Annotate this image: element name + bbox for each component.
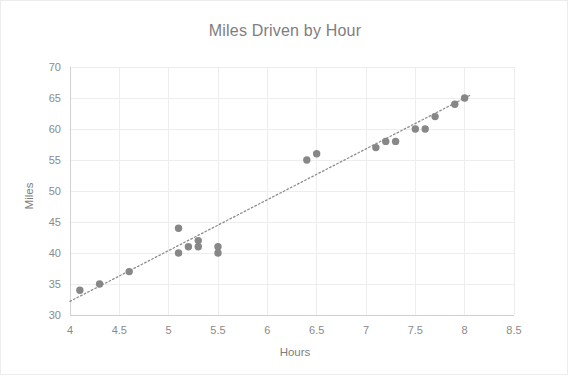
x-tick-label: 5 <box>166 324 172 336</box>
x-tick-label: 7 <box>363 324 369 336</box>
data-point <box>96 280 103 287</box>
data-point <box>392 138 399 145</box>
data-point <box>372 144 379 151</box>
data-point <box>382 138 389 145</box>
x-tick-label: 5.5 <box>210 324 225 336</box>
data-point <box>422 125 429 132</box>
chart-container: Miles Driven by Hour 303540455055606570 … <box>0 0 568 375</box>
data-point <box>303 156 310 163</box>
scatter-plot-svg: 303540455055606570 44.555.566.577.588.5 … <box>1 1 569 376</box>
data-point <box>461 94 468 101</box>
data-point <box>431 113 438 120</box>
data-point <box>214 249 221 256</box>
y-tick-label: 55 <box>49 154 61 166</box>
data-point <box>313 150 320 157</box>
x-tick-label: 7.5 <box>408 324 423 336</box>
x-tick-label: 4 <box>67 324 73 336</box>
y-axis-title: Miles <box>23 182 35 209</box>
x-tick-label: 8 <box>462 324 468 336</box>
x-axis-tick-labels: 44.555.566.577.588.5 <box>67 324 522 336</box>
y-tick-label: 45 <box>49 216 61 228</box>
y-tick-label: 40 <box>49 247 61 259</box>
x-tick-label: 8.5 <box>506 324 521 336</box>
x-tick-label: 6.5 <box>309 324 324 336</box>
data-point <box>175 249 182 256</box>
y-tick-label: 70 <box>49 61 61 73</box>
plot-area: 303540455055606570 44.555.566.577.588.5 … <box>1 1 569 376</box>
data-point <box>126 268 133 275</box>
x-tick-label: 6 <box>264 324 270 336</box>
data-point <box>195 243 202 250</box>
data-point <box>185 243 192 250</box>
horizontal-gridlines <box>70 67 514 315</box>
y-tick-label: 60 <box>49 123 61 135</box>
data-point <box>412 125 419 132</box>
data-point <box>76 287 83 294</box>
data-point <box>451 101 458 108</box>
y-tick-label: 50 <box>49 185 61 197</box>
y-tick-label: 30 <box>49 309 61 321</box>
x-axis-title: Hours <box>280 346 311 358</box>
data-point <box>175 225 182 232</box>
x-tick-label: 4.5 <box>112 324 127 336</box>
y-tick-label: 35 <box>49 278 61 290</box>
y-tick-label: 65 <box>49 92 61 104</box>
y-axis-tick-labels: 303540455055606570 <box>49 61 61 321</box>
data-point-markers <box>76 94 468 294</box>
